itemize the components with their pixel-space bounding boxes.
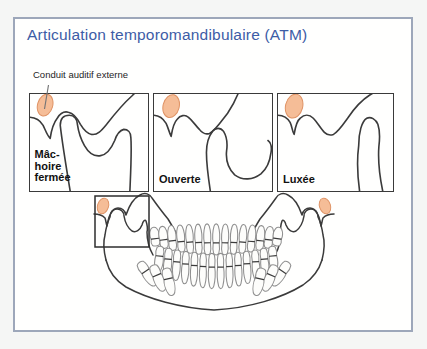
caption-jaw-dislocated: Luxée [283, 174, 315, 186]
annotation-pointer-line [40, 84, 54, 110]
caption-jaw-closed: Mâc-hoirefermée [35, 149, 71, 184]
mandible-condyle-line [358, 118, 383, 191]
mandible-condyle-line [206, 128, 271, 191]
figure-title: Articulation temporomandibulaire (ATM) [27, 26, 307, 44]
ear-canal-annotation-label: Conduit auditif externe [33, 69, 128, 80]
figure-page: Articulation temporomandibulaire (ATM) C… [0, 0, 427, 349]
ear-canal-oval [161, 94, 182, 119]
mandible-panoramic-drawing [20, 190, 407, 325]
panel-jaw-dislocated: Luxée [277, 93, 394, 192]
mandible-condyle-line [60, 115, 131, 191]
panel-jaw-open: Ouverte [153, 93, 273, 192]
caption-jaw-open: Ouverte [159, 174, 201, 186]
teeth-rows [135, 224, 292, 297]
